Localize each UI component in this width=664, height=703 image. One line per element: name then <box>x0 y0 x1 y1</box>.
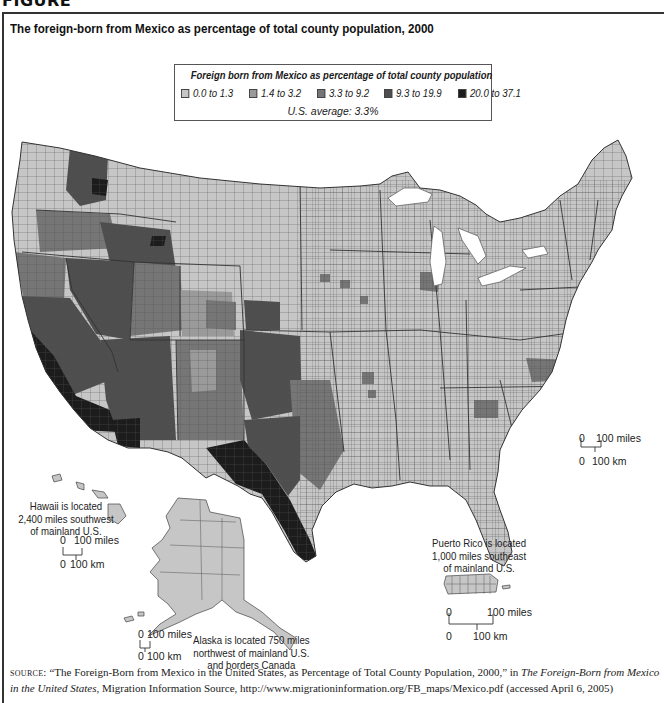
alaska-scale-miles-zero: 0 <box>138 628 144 640</box>
puerto-rico-note-line: Puerto Rico is located <box>432 537 526 550</box>
puerto-rico-scale-miles-label: 100 miles <box>487 606 532 618</box>
alaska-note-line: northwest of mainland U.S. <box>193 647 310 660</box>
region-florida-central <box>522 506 540 530</box>
puerto-rico-vieques <box>502 585 510 589</box>
puerto-rico-scale-km-zero: 0 <box>446 630 452 642</box>
hawaii-island-oahu <box>76 482 84 490</box>
hawaii-scale-miles-label: 100 miles <box>74 534 119 546</box>
hawaii-island-maui <box>92 490 108 498</box>
hawaii-note-line: 2,400 miles southwest <box>18 513 114 526</box>
mainland-scale-miles-zero: 0 <box>579 432 585 444</box>
hawaii-island-kauai <box>52 474 62 482</box>
mainland-scale-km-zero: 0 <box>579 455 585 467</box>
source-quote: “The Foreign-Born from Mexico in the Uni… <box>49 666 521 678</box>
hawaii-scale-km-zero: 0 <box>60 558 66 570</box>
mainland-scale-miles-label: 100 miles <box>596 432 641 444</box>
alaska-scale-km-zero: 0 <box>138 650 144 662</box>
alaska-note-line: Alaska is located 750 miles <box>193 634 310 647</box>
source-note: Source: “The Foreign-Born from Mexico in… <box>10 664 664 696</box>
puerto-rico-note-line: of mainland U.S. <box>432 562 526 575</box>
mainland-scale-km-label: 100 km <box>592 455 626 467</box>
hawaii-note-line: Hawaii is located <box>18 500 114 513</box>
hawaii-note: Hawaii is located 2,400 miles southwest … <box>18 500 114 538</box>
hawaii-scale-km-label: 100 km <box>70 558 104 570</box>
alaska-scale-miles-label: 100 miles <box>147 628 192 640</box>
choropleth-map <box>0 0 664 703</box>
source-label: Source: <box>10 666 47 678</box>
alaska-scale-km-label: 100 km <box>147 650 181 662</box>
puerto-rico-note: Puerto Rico is located 1,000 miles south… <box>432 537 526 575</box>
puerto-rico-scale-miles-zero: 0 <box>446 606 452 618</box>
hawaii-scale-miles-zero: 0 <box>60 534 66 546</box>
puerto-rico-inset <box>444 574 510 594</box>
puerto-rico-scale-km-label: 100 km <box>473 630 507 642</box>
alaska-aleutians <box>124 612 144 622</box>
puerto-rico-note-line: 1,000 miles southeast <box>432 550 526 563</box>
source-rest: , Migration Information Source, http://w… <box>96 682 613 694</box>
